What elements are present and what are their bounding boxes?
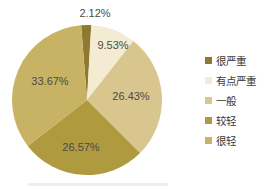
pie-chart-figure: 2.12% 9.53% 26.43% 26.57% 33.67% 很严重 有点严…: [0, 0, 267, 189]
slice-label-very-light: 33.67%: [31, 75, 68, 87]
legend-label: 较轻: [216, 113, 236, 128]
legend-item: 较轻: [205, 110, 256, 130]
legend-item: 很轻: [205, 130, 256, 150]
legend-label: 一般: [216, 93, 236, 108]
legend-label: 有点严重: [216, 73, 256, 88]
legend-swatch-icon: [205, 117, 212, 124]
legend-label: 很严重: [216, 53, 246, 68]
legend-item: 很严重: [205, 50, 256, 70]
legend-item: 有点严重: [205, 70, 256, 90]
slice-label-average: 26.43%: [112, 90, 149, 102]
legend-label: 很轻: [216, 133, 236, 148]
legend-swatch-icon: [205, 77, 212, 84]
slice-label-lighter: 26.57%: [62, 141, 99, 153]
slice-label-very-serious: 2.12%: [79, 7, 110, 19]
legend: 很严重 有点严重 一般 较轻 很轻: [205, 50, 256, 150]
slice-label-somewhat-serious: 9.53%: [97, 39, 128, 51]
legend-swatch-icon: [205, 97, 212, 104]
figure-shadow-artifact: [28, 183, 168, 186]
legend-swatch-icon: [205, 137, 212, 144]
legend-item: 一般: [205, 90, 256, 110]
legend-swatch-icon: [205, 57, 212, 64]
